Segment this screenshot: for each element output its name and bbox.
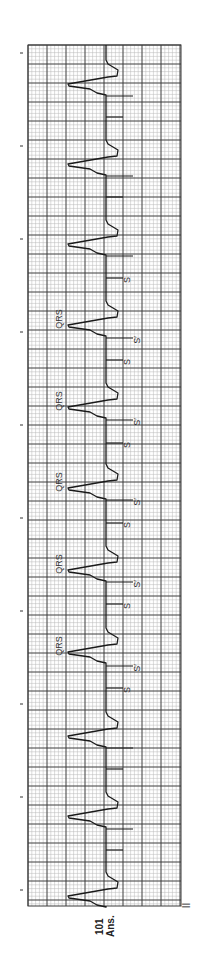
time-tick-marks: [20, 53, 23, 890]
s-prime-label: S′: [132, 498, 142, 506]
qrs-label: QRS: [54, 391, 64, 411]
s-prime-label: S′: [132, 336, 142, 344]
s-label: S: [122, 522, 132, 528]
qrs-label: QRS: [54, 554, 64, 574]
qrs-label: QRS: [54, 472, 64, 492]
s-label: S: [122, 359, 132, 365]
qrs-label: QRS: [54, 309, 64, 329]
ecg-strip: SQRSS′SQRSS′SQRSS′SQRSS′SQRSS′S: [0, 0, 201, 968]
lead-label: II: [181, 903, 192, 909]
s-prime-label: S′: [132, 664, 142, 672]
qrs-label: QRS: [54, 636, 64, 656]
s-prime-label: S′: [132, 580, 142, 588]
s-label: S: [122, 603, 132, 609]
caption-text: Ans.: [105, 915, 116, 937]
s-label: S: [122, 442, 132, 448]
s-wave-markers: [106, 96, 133, 850]
wave-labels: SQRSS′SQRSS′SQRSS′SQRSS′SQRSS′S: [54, 277, 142, 693]
s-label: S: [122, 277, 132, 283]
caption-number: 101: [94, 918, 105, 935]
s-prime-label: S′: [132, 418, 142, 426]
s-label: S: [122, 687, 132, 693]
